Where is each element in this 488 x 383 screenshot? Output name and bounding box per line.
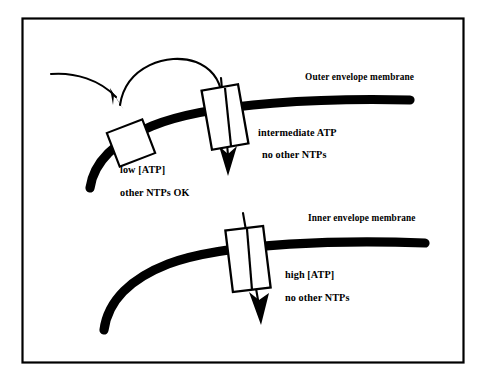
outer-channel-condition-line1: intermediate ATP xyxy=(258,127,337,138)
envelope-membrane-diagram: Outer envelope membrane intermediate ATP… xyxy=(0,0,488,383)
closed-channel-condition-line2: other NTPs OK xyxy=(120,187,190,198)
inner-channel-condition-line1: high [ATP] xyxy=(285,269,334,280)
diagram-canvas: Outer envelope membrane intermediate ATP… xyxy=(0,0,488,383)
closed-channel-condition-line1: low [ATP] xyxy=(120,164,165,175)
inner-channel-condition-line2: no other NTPs xyxy=(285,292,350,303)
outer-channel-condition-line2: no other NTPs xyxy=(262,149,327,160)
inner-membrane-label: Inner envelope membrane xyxy=(308,213,416,223)
outer-membrane-label: Outer envelope membrane xyxy=(305,72,414,82)
